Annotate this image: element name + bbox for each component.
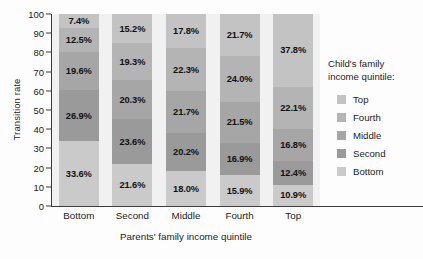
bar-segment[interactable]: 12.4% (273, 161, 313, 185)
bar-segment[interactable]: 16.8% (273, 129, 313, 161)
legend-entry[interactable]: Second (328, 144, 423, 162)
bar-column[interactable]: 7.4%12.5%19.6%26.9%33.6% (59, 14, 99, 206)
y-axis-tick-label: 50 (33, 105, 44, 116)
legend-label: Top (353, 94, 368, 105)
bar-segment[interactable]: 21.6% (112, 164, 152, 205)
y-axis-tick-label: 70 (33, 66, 44, 77)
bar-segment-value-label: 22.1% (280, 103, 306, 113)
y-axis-tick-label: 20 (33, 162, 44, 173)
bar-segment-value-label: 19.3% (119, 57, 145, 67)
bar-column[interactable]: 15.2%19.3%20.3%23.6%21.6% (112, 14, 152, 206)
legend-swatch-icon (337, 95, 346, 104)
bar-segment[interactable]: 23.6% (112, 119, 152, 164)
legend-entry-list: TopFourthMiddleSecondBottom (328, 90, 423, 180)
bar-segment[interactable]: 33.6% (59, 141, 99, 206)
bar-segment-value-label: 21.5% (227, 117, 253, 127)
bar-segment-value-label: 17.8% (173, 26, 199, 36)
legend-entry[interactable]: Middle (328, 126, 423, 144)
legend-swatch-icon (337, 167, 346, 176)
bar-segment-value-label: 19.6% (66, 66, 92, 76)
y-axis-tick-label: 60 (33, 85, 44, 96)
bar-segment[interactable]: 10.9% (273, 185, 313, 206)
legend-label: Bottom (353, 166, 383, 177)
bar-segment-value-label: 18.0% (173, 184, 199, 194)
legend-entry[interactable]: Top (328, 90, 423, 108)
legend-label: Second (353, 148, 386, 159)
bar-segment-value-label: 15.2% (119, 24, 145, 34)
bar-segment[interactable]: 15.9% (220, 175, 260, 206)
bar-segment[interactable]: 26.9% (59, 90, 99, 142)
bar-segment[interactable]: 20.3% (112, 80, 152, 119)
bar-segment-value-label: 20.3% (119, 95, 145, 105)
x-axis-line (51, 206, 423, 207)
legend-title-line: income quintile: (328, 71, 423, 84)
x-axis-tick-label: Top (285, 210, 301, 221)
plot-area: 7.4%12.5%19.6%26.9%33.6%15.2%19.3%20.3%2… (52, 14, 320, 206)
bar-segment-value-label: 21.7% (173, 107, 199, 117)
bar-column[interactable]: 37.8%22.1%16.8%12.4%10.9% (273, 14, 313, 206)
bar-segment-value-label: 24.0% (227, 74, 253, 84)
bar-segment-value-label: 20.2% (173, 147, 199, 157)
bar-segment[interactable]: 17.8% (166, 14, 206, 48)
bar-segment-value-label: 16.9% (227, 154, 253, 164)
y-axis-tick-label: 40 (33, 124, 44, 135)
bar-segment[interactable]: 19.3% (112, 43, 152, 80)
bar-segment-value-label: 12.4% (280, 168, 306, 178)
y-axis-tick-label: 0 (39, 201, 44, 212)
bar-segment-value-label: 7.4% (68, 16, 89, 26)
bar-segment[interactable]: 21.7% (166, 91, 206, 133)
bar-segment-value-label: 21.6% (119, 180, 145, 190)
stacked-bar-chart: Transition rate 0102030405060708090100 7… (0, 0, 423, 259)
bar-segment[interactable]: 24.0% (220, 56, 260, 102)
bar-segment[interactable]: 22.1% (273, 87, 313, 129)
x-axis-title: Parents' family income quintile (52, 231, 320, 242)
bar-segment-value-label: 33.6% (66, 169, 92, 179)
legend-title-line: Child's family (328, 58, 423, 71)
y-axis-tick-label: 80 (33, 47, 44, 58)
legend-label: Middle (353, 130, 381, 141)
y-axis-tick-labels: 0102030405060708090100 (0, 0, 52, 259)
bar-segment-value-label: 23.6% (119, 137, 145, 147)
y-axis-tick-label: 90 (33, 28, 44, 39)
bar-segment[interactable]: 21.7% (220, 14, 260, 56)
bar-segment[interactable]: 18.0% (166, 171, 206, 206)
bar-segment[interactable]: 16.9% (220, 143, 260, 175)
legend-entry[interactable]: Fourth (328, 108, 423, 126)
legend-swatch-icon (337, 113, 346, 122)
bar-segment[interactable]: 12.5% (59, 28, 99, 52)
legend-entry[interactable]: Bottom (328, 162, 423, 180)
bar-segment[interactable]: 15.2% (112, 14, 152, 43)
legend-label: Fourth (353, 112, 381, 123)
bar-segment[interactable]: 19.6% (59, 52, 99, 90)
bar-segment-value-label: 15.9% (227, 186, 253, 196)
bar-segment-value-label: 22.3% (173, 65, 199, 75)
bar-segment-value-label: 21.7% (227, 30, 253, 40)
bar-segment[interactable]: 21.5% (220, 102, 260, 143)
x-axis-tick-label: Fourth (225, 210, 253, 221)
x-axis-tick-label: Middle (172, 210, 201, 221)
bar-segment-value-label: 16.8% (280, 140, 306, 150)
x-axis-tick-label: Second (116, 210, 149, 221)
bar-segment[interactable]: 37.8% (273, 14, 313, 87)
legend-title: Child's familyincome quintile: (328, 58, 423, 83)
bar-segment[interactable]: 22.3% (166, 48, 206, 91)
bar-column[interactable]: 17.8%22.3%21.7%20.2%18.0% (166, 14, 206, 206)
bar-segment[interactable]: 7.4% (59, 14, 99, 28)
legend: Child's familyincome quintile: TopFourth… (328, 58, 423, 180)
legend-swatch-icon (337, 131, 346, 140)
bar-segment-value-label: 37.8% (280, 45, 306, 55)
bar-column[interactable]: 21.7%24.0%21.5%16.9%15.9% (220, 14, 260, 206)
bar-segment-value-label: 10.9% (280, 190, 306, 200)
legend-swatch-icon (337, 149, 346, 158)
x-axis-tick-label: Bottom (63, 210, 94, 221)
y-axis-tick-label: 30 (33, 143, 44, 154)
y-axis-tick-label: 100 (28, 9, 44, 20)
y-axis-tick-label: 10 (33, 181, 44, 192)
bar-segment[interactable]: 20.2% (166, 133, 206, 172)
bar-segment-value-label: 26.9% (66, 111, 92, 121)
bar-segment-value-label: 12.5% (66, 35, 92, 45)
